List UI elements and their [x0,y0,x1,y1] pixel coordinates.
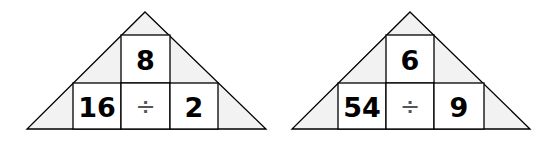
number-label: 2 [185,92,204,123]
division-triangle-puzzles: 816÷2654÷9 [0,0,551,141]
number-label: 9 [450,92,469,123]
result-box: 6 [386,35,434,83]
triangle-puzzle-2: 654÷9 [292,12,530,129]
operator-box: ÷ [121,83,170,129]
operand-box: 54 [338,83,386,129]
number-label: 54 [343,92,381,123]
operand-box: 16 [73,83,121,129]
result-box: 8 [121,35,170,83]
operand-box: 9 [434,83,484,129]
number-label: 8 [136,45,155,76]
number-label: 6 [401,45,420,76]
division-sign: ÷ [135,93,155,121]
number-label: 16 [78,92,116,123]
operator-box: ÷ [386,83,434,129]
operand-box: 2 [170,83,218,129]
triangle-puzzle-1: 816÷2 [27,12,266,129]
division-sign: ÷ [400,93,420,121]
